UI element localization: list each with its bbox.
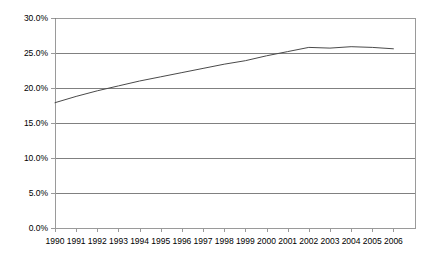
gridlines [55,19,415,194]
series-line [55,47,393,103]
data-series [55,47,393,103]
line-chart-canvas [0,0,427,259]
y-axis-ticks [51,19,55,229]
y-axis-tick-label: 15.0% [24,118,48,128]
y-axis-tick-label: 30.0% [24,13,48,23]
y-axis-tick-label: 5.0% [29,188,48,198]
x-axis-tick-label: 2006 [381,236,405,246]
y-axis-tick-label: 25.0% [24,48,48,58]
chart-container: 0.0%5.0%10.0%15.0%20.0%25.0%30.0% 199019… [0,0,427,259]
y-axis-tick-label: 0.0% [29,223,48,233]
y-axis-tick-label: 10.0% [24,153,48,163]
y-axis-tick-label: 20.0% [24,83,48,93]
